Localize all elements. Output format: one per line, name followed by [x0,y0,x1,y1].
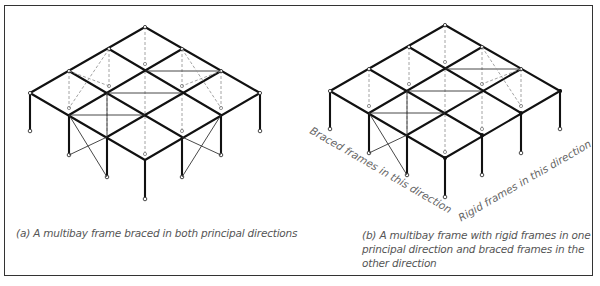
caption-panel-a: (a) A multibay frame braced in both prin… [16,226,306,240]
panel-a-frame [28,25,262,200]
caption-panel-b: (b) A multibay frame with rigid frames i… [362,228,592,270]
